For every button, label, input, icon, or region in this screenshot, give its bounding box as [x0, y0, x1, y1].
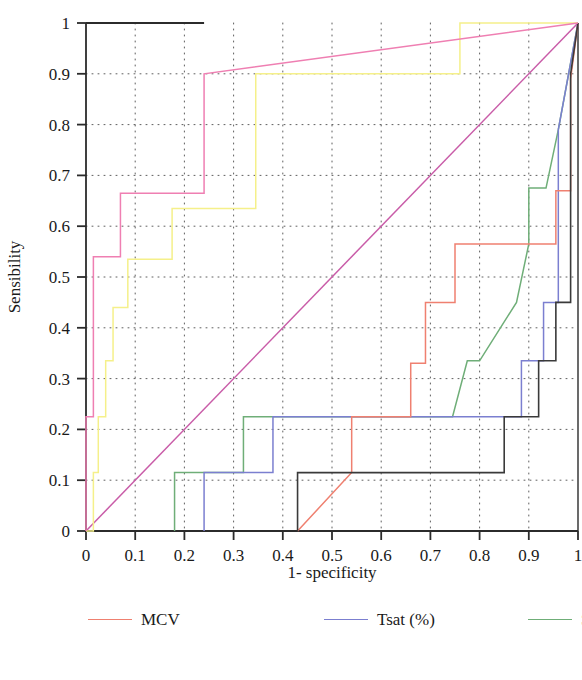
x-tick-label: 0: [82, 546, 91, 565]
y-tick-label: 0.4: [49, 319, 71, 338]
axis-tick-labels: 00.10.20.30.40.50.60.70.80.9100.10.20.30…: [49, 14, 582, 565]
y-tick-label: 0.7: [49, 166, 71, 185]
x-tick-label: 0.3: [223, 546, 244, 565]
y-tick-label: 0.1: [49, 471, 70, 490]
roc-curve-serum-iron: [175, 23, 578, 531]
roc-chart-svg: 00.10.20.30.40.50.60.70.80.9100.10.20.30…: [0, 0, 582, 600]
y-tick-label: 0.6: [49, 217, 70, 236]
y-tick-label: 0.9: [49, 65, 70, 84]
legend-item-mcv: MCV: [88, 608, 324, 631]
y-tick-label: 0.3: [49, 370, 70, 389]
x-tick-label: 0.7: [420, 546, 442, 565]
x-tick-label: 0.2: [174, 546, 195, 565]
x-axis-title: 1- specificity: [287, 563, 377, 582]
legend-label-mcv: MCV: [141, 611, 180, 628]
y-tick-label: 0.2: [49, 420, 70, 439]
y-tick-label: 0.5: [49, 268, 70, 287]
x-tick-label: 0.8: [469, 546, 490, 565]
legend-label-tsat: Tsat (%): [377, 611, 435, 628]
roc-curve-figure: 00.10.20.30.40.50.60.70.80.9100.10.20.30…: [0, 0, 582, 680]
y-axis-title: Sensibility: [5, 240, 24, 313]
x-tick-label: 1: [574, 546, 582, 565]
legend-swatch-serum-iron: [528, 619, 572, 620]
y-tick-label: 0: [62, 522, 71, 541]
legend-item-tsat: Tsat (%): [324, 608, 528, 631]
legend-swatch-mcv: [88, 619, 132, 620]
y-tick-label: 1: [62, 14, 71, 33]
x-tick-label: 0.9: [518, 546, 539, 565]
y-tick-label: 0.8: [49, 116, 70, 135]
chart-legend: MCV Tsat (%) Serum iron Ferritin TIBC sT…: [88, 608, 528, 676]
x-tick-label: 0.1: [125, 546, 146, 565]
plot-area: 00.10.20.30.40.50.60.70.80.9100.10.20.30…: [0, 0, 582, 600]
legend-item-serum-iron: Serum iron: [528, 608, 582, 631]
legend-swatch-tsat: [324, 619, 368, 620]
